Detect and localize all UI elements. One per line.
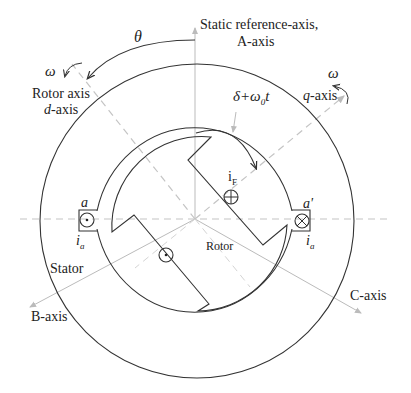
coil-a-prime-cross-icon	[295, 214, 309, 228]
d-axis-label: d-axis	[44, 103, 78, 117]
delta-t: t	[265, 88, 269, 104]
delta-pointer	[233, 112, 236, 132]
current-ia-left-label: ia	[76, 234, 84, 251]
q-axis-label: q-axis	[303, 89, 337, 103]
current-ia-right-label: ia	[306, 234, 314, 251]
b-axis-label: B-axis	[31, 310, 68, 324]
coil-a-prime-label: a'	[303, 197, 313, 211]
d-axis-prefix: d	[44, 102, 51, 117]
q-axis-suffix: -axis	[310, 88, 337, 103]
machine-diagram	[0, 0, 411, 393]
rotor-label: Rotor	[206, 240, 233, 252]
static-axis-label-line2: A-axis	[237, 35, 274, 49]
c-axis-label: C-axis	[350, 289, 387, 303]
d-axis-extension	[195, 219, 250, 287]
d-axis-line	[72, 64, 195, 219]
theta-arrow	[88, 40, 195, 78]
delta-expr: δ+ω	[233, 88, 261, 104]
q-axis-prefix: q	[303, 88, 310, 103]
rotor-rotation-arrow	[196, 130, 256, 168]
d-axis-suffix: -axis	[51, 102, 78, 117]
omega-right-label: ω	[328, 66, 339, 81]
field-coil-dot-icon	[159, 248, 173, 262]
coil-a-label: a	[81, 196, 88, 210]
q-axis-line	[195, 96, 344, 219]
stator-label: Stator	[50, 262, 83, 276]
theta-label: θ	[134, 29, 142, 45]
coil-a-dot-icon	[80, 213, 94, 227]
delta-label: δ+ω0t	[233, 89, 269, 107]
current-ia-left-sub: a	[80, 241, 85, 251]
static-axis-label-line1: Static reference-axis,	[200, 18, 318, 32]
omega-left-label: ω	[45, 64, 56, 79]
current-ia-right-sub: a	[310, 241, 315, 251]
field-coil-cross-icon	[224, 190, 238, 204]
field-current-label: iF	[228, 170, 237, 187]
rotor-axis-label: Rotor axis	[32, 87, 90, 101]
field-current-sub: F	[232, 177, 237, 187]
